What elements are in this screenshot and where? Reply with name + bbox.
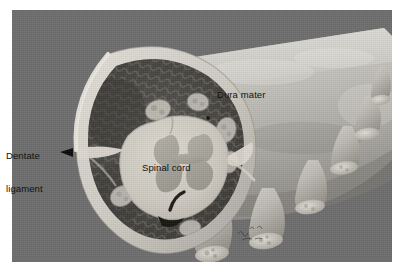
spinal-cord-illustration xyxy=(12,10,392,262)
illustration-panel: Dura mater Spinal cord xyxy=(12,10,392,262)
label-dura-mater: Dura mater xyxy=(217,89,266,100)
label-dentate-ligament-line1: Dentate xyxy=(6,150,43,161)
dentate-ligament-arrow xyxy=(60,148,73,157)
label-dentate-ligament-line2: ligament xyxy=(6,183,43,194)
label-spinal-cord: Spinal cord xyxy=(142,162,191,173)
label-dentate-ligament: Dentate ligament xyxy=(6,128,43,216)
figure-container: Dura mater Spinal cord Dentate ligament xyxy=(0,0,405,275)
